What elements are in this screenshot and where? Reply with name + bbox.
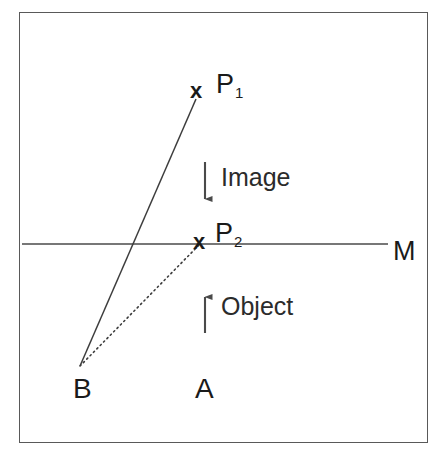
mirror-line-label-m: M — [393, 238, 416, 265]
image-caption: Image — [221, 165, 290, 190]
solid-ray-b-to-p1 — [80, 99, 196, 366]
point-label-p1-letter: P — [216, 69, 234, 99]
point-marker-p2-x: x — [193, 231, 205, 253]
point-label-p1: P1 — [216, 71, 242, 98]
point-marker-p1-x: x — [190, 80, 202, 102]
dotted-ray-b-to-p2 — [80, 243, 201, 366]
point-label-p2-letter: P — [215, 218, 233, 248]
vertex-label-a: A — [195, 375, 214, 403]
vertex-label-b: B — [73, 375, 92, 403]
point-label-p2: P2 — [215, 220, 241, 247]
point-label-p2-subscript: 2 — [234, 233, 242, 250]
object-caption: Object — [221, 294, 293, 319]
figure-canvas: x P1 x P2 M Image Object B A — [0, 0, 443, 456]
point-label-p1-subscript: 1 — [235, 84, 243, 101]
